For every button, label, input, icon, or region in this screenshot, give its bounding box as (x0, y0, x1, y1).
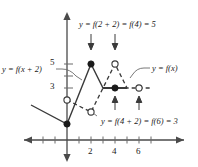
annotation-left: y = f(x + 2) (2, 65, 42, 74)
x-tick-label-4: 4 (112, 147, 117, 156)
y-axis-arrow-down (63, 154, 70, 162)
curve-f-x-plus-2-path (31, 64, 127, 124)
leader-lines (56, 68, 150, 116)
x-axis-arrow-right (176, 136, 184, 143)
down-arrow-x4-head (112, 44, 118, 51)
leader-line-left (56, 69, 82, 80)
up-arrow-x4-head (112, 96, 118, 103)
annotation-top: y = f(2 + 2) = f(4) = 5 (79, 20, 156, 29)
point-6-3-open (136, 85, 142, 91)
annotation-bottom: y = f(4 + 2) = f(6) = 3 (101, 117, 178, 126)
y-tick-label-5: 5 (50, 58, 55, 67)
curve-f-x-plus-2 (31, 64, 127, 124)
point-2-5-filled (88, 61, 94, 67)
point-4-3-filled (112, 85, 118, 91)
y-axis-arrow-up (63, 12, 70, 20)
annotation-arrows (88, 34, 142, 110)
x-tick-label-6: 6 (136, 147, 141, 156)
down-arrow-x2-head (88, 44, 94, 51)
point-4-5-open (112, 61, 118, 67)
function-translation-figure: y = f(2 + 2) = f(4) = 5 y = f(x + 2) y =… (0, 0, 198, 167)
x-axis-arrow-left (24, 136, 32, 143)
y-tick-label-3: 3 (50, 82, 55, 91)
leader-line-right (130, 68, 150, 78)
point-2-1-open (88, 109, 94, 115)
point-0-0-filled (64, 121, 70, 127)
up-arrow-x6-head (136, 96, 142, 103)
x-tick-label-2: 2 (88, 147, 93, 156)
annotation-right: y = f(x) (152, 64, 178, 73)
point-0-2-open (64, 97, 70, 103)
